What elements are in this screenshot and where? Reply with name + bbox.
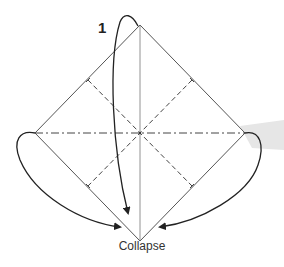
center-point	[139, 132, 142, 135]
origami-diagram	[0, 0, 284, 267]
shadow-band	[240, 120, 284, 150]
step-number: 1	[98, 19, 106, 36]
caption-collapse: Collapse	[0, 239, 284, 253]
